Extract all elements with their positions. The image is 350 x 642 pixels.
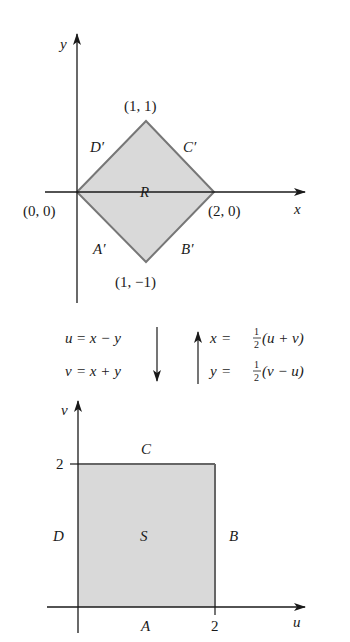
inverse-eq2-equals: = (222, 363, 230, 379)
inverse-eq1-frac-den: 2 (254, 339, 259, 350)
edge-label-D: D (52, 528, 64, 544)
forward-eq1-lhs: u (65, 330, 73, 346)
edge-label-A: A (140, 618, 151, 634)
top-plot: y x R (1, 1) (0, 0) (2, 0) (1, −1) D′ C′… (23, 34, 305, 303)
v-tick-label: 2 (56, 456, 64, 472)
vertex-right-label: (2, 0) (208, 203, 241, 220)
edge-label-D-prime: D′ (89, 139, 105, 155)
transformation-equations: u = x − y v = x + y x = 1 2 (u + v) y = … (65, 326, 304, 384)
x-axis-label: x (293, 201, 301, 217)
region-label-R: R (139, 184, 149, 200)
vertex-top-label: (1, 1) (124, 98, 157, 115)
y-axis-label: y (58, 36, 67, 52)
bottom-plot: v u 2 2 S C D B A (47, 401, 305, 634)
inverse-eq2-frac-den: 2 (254, 372, 259, 383)
region-label-S: S (140, 528, 148, 544)
v-axis-label: v (61, 402, 68, 418)
change-of-variables-diagram: y x R (1, 1) (0, 0) (2, 0) (1, −1) D′ C′… (0, 0, 350, 642)
vertex-bottom-label: (1, −1) (115, 274, 156, 291)
edge-label-B-prime: B′ (181, 241, 194, 257)
inverse-eq2-lhs: y (208, 363, 217, 379)
forward-eq2-rhs: = x + y (76, 363, 121, 379)
inverse-eq2-rhs: (v − u) (262, 363, 304, 380)
inverse-eq1-equals: = (222, 330, 230, 346)
forward-eq2-lhs: v (65, 363, 72, 379)
edge-label-C-prime: C′ (183, 139, 197, 155)
u-tick-label: 2 (211, 618, 219, 634)
edge-label-B: B (229, 528, 238, 544)
edge-label-A-prime: A′ (92, 241, 106, 257)
inverse-eq1-rhs: (u + v) (262, 330, 304, 347)
inverse-eq2-frac-num: 1 (254, 359, 259, 370)
edge-label-C: C (141, 441, 152, 457)
inverse-eq1-frac-num: 1 (254, 326, 259, 337)
u-axis-label: u (293, 614, 301, 630)
vertex-left-label: (0, 0) (23, 203, 56, 220)
inverse-eq1-lhs: x (209, 330, 217, 346)
forward-eq1-rhs: = x − y (76, 330, 121, 346)
